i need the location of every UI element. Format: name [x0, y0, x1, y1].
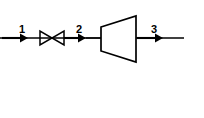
- flow-diagram-canvas: [0, 0, 204, 118]
- process-flow-diagram: 1 2 3: [0, 0, 204, 118]
- state-point-label-3: 3: [151, 24, 157, 35]
- state-point-label-1: 1: [19, 24, 25, 35]
- state-point-label-2: 2: [76, 24, 82, 35]
- state-3-arrow: [137, 34, 163, 43]
- state-2-arrow: [64, 34, 86, 43]
- turbine-icon: [101, 16, 136, 62]
